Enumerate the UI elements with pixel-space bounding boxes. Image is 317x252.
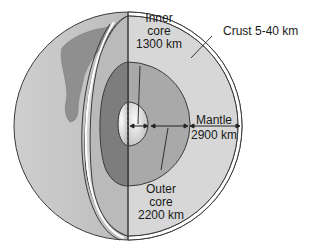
inner-core-label: Inner core 1300 km bbox=[128, 12, 190, 51]
outer-core-label: Outer core 2200 km bbox=[134, 183, 188, 222]
mantle-label: Mantle 2900 km bbox=[186, 114, 242, 142]
crust-label: Crust 5-40 km bbox=[223, 25, 298, 38]
